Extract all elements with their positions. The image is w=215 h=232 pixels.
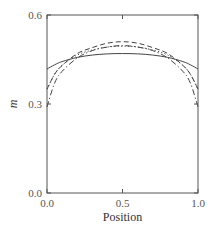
chart: 0.0 0.3 0.6 0.0 0.5 1.0 Position m (0, 0, 215, 232)
series-line-dashed (47, 42, 198, 89)
series-line-dash-dot (47, 46, 198, 107)
y-axis-label: m (6, 99, 20, 108)
axis-labels: 0.0 0.3 0.6 0.0 0.5 1.0 Position m (6, 9, 205, 224)
plot-frame (47, 15, 198, 193)
axis-ticks (47, 15, 198, 193)
y-tick-label: 0.6 (28, 9, 42, 21)
series-group (47, 42, 198, 107)
x-axis-label: Position (103, 210, 142, 224)
x-tick-label: 1.0 (191, 197, 205, 209)
x-tick-label: 0.0 (40, 197, 54, 209)
series-line-solid (47, 54, 198, 69)
series-line-dotted (47, 46, 198, 89)
y-tick-label: 0.3 (28, 98, 42, 110)
x-tick-label: 0.5 (116, 197, 130, 209)
